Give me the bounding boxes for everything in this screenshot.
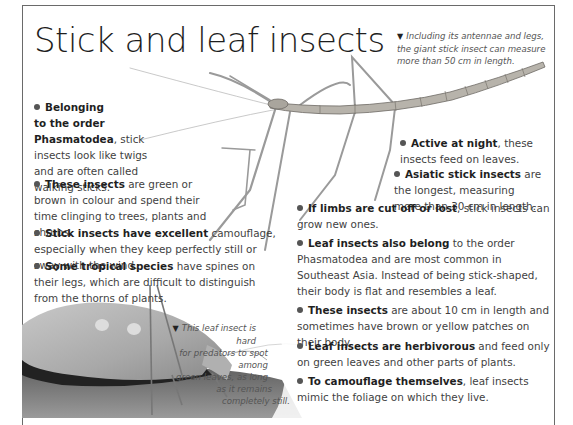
fact-active-night: Active at night, these insects feed on l…: [400, 135, 550, 167]
giant-stick-caption: ▼Including its antennae and legs, the gi…: [397, 30, 557, 67]
fact-leaf-insects-order: Leaf insects also belong to the order Ph…: [297, 235, 552, 299]
bullet-icon: [34, 230, 40, 236]
leaf-insect-caption: ▼This leaf insect is hard for predators …: [160, 322, 290, 407]
bullet-icon: [297, 343, 303, 349]
fact-limbs: If limbs are cut off or lost, stick inse…: [297, 200, 552, 232]
fact-tropical-spines: Some tropical species have spines on the…: [34, 258, 279, 306]
page-title: Stick and leaf insects: [34, 20, 385, 60]
bullet-icon: [297, 378, 303, 384]
bullet-icon: [400, 140, 406, 146]
fact-mimic-foliage: To camouflage themselves, leaf insects m…: [297, 373, 552, 405]
bullet-icon: [297, 205, 303, 211]
bullet-icon: [34, 181, 40, 187]
fact-herbivorous: Leaf insects are herbivorous and feed on…: [297, 338, 552, 370]
down-triangle-icon: ▼: [397, 32, 403, 41]
bullet-icon: [34, 263, 40, 269]
down-triangle-icon: ▼: [173, 324, 179, 333]
bullet-icon: [34, 104, 40, 110]
bullet-icon: [297, 240, 303, 246]
bullet-icon: [394, 171, 400, 177]
bullet-icon: [297, 307, 303, 313]
giant-stick-caption-text: Including its antennae and legs, the gia…: [397, 31, 545, 66]
